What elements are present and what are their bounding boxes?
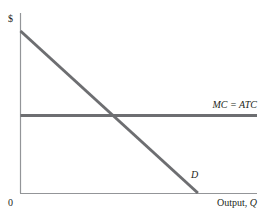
demand-curve (21, 31, 198, 193)
mc-atc-label: MC = ATC (211, 99, 257, 110)
x-axis-label: Output, Q (217, 197, 258, 208)
x-axis-label-text: Output, (217, 197, 250, 208)
demand-label: D (190, 169, 199, 180)
y-axis-label: $ (8, 13, 13, 24)
x-axis-label-var: Q (250, 197, 258, 208)
origin-label: 0 (8, 197, 13, 208)
chart: $ 0 Output, Q MC = ATC D (0, 0, 264, 217)
series-layer (21, 31, 258, 193)
